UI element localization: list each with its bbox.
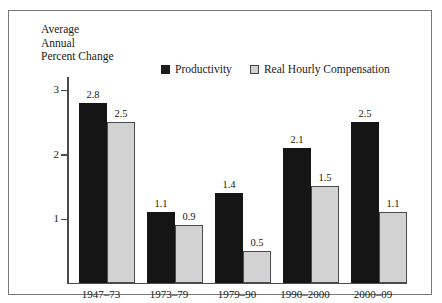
y-axis-tick-label-1: 1 xyxy=(49,213,59,224)
bar-group: 2.51.1 xyxy=(339,77,407,283)
bar-group: 2.11.5 xyxy=(271,77,339,283)
bar-value-label: 2.5 xyxy=(114,109,127,120)
cropped-caption-sliver xyxy=(0,0,442,9)
x-axis-category-label: 1947–73 xyxy=(67,288,135,301)
bar-value-label: 1.1 xyxy=(386,199,399,210)
bar[interactable]: 1.4 xyxy=(215,193,243,283)
y-axis-tick-label-2: 2 xyxy=(49,149,59,160)
y-axis-title-line-2: Annual xyxy=(41,37,114,51)
legend-label-productivity: Productivity xyxy=(175,64,232,75)
x-axis-category-label: 1973–79 xyxy=(135,288,203,301)
bar-value-label: 1.5 xyxy=(318,173,331,184)
bar-value-label: 1.1 xyxy=(154,199,167,210)
x-axis-category-labels: 1947–731973–791979–901990–20002000–09 xyxy=(67,288,407,303)
x-axis-category-label: 1990–2000 xyxy=(271,288,339,301)
bar[interactable]: 0.5 xyxy=(243,251,271,283)
bar[interactable]: 2.8 xyxy=(79,103,107,283)
bar[interactable]: 2.5 xyxy=(351,122,379,283)
bar-value-label: 2.8 xyxy=(86,90,99,101)
bar[interactable]: 2.5 xyxy=(107,122,135,283)
bar-group: 2.82.5 xyxy=(67,77,135,283)
y-axis-tick-label-3: 3 xyxy=(49,84,59,95)
x-axis-category-label: 2000–09 xyxy=(339,288,407,301)
bar[interactable]: 1.5 xyxy=(311,186,339,283)
legend-entry-real-hourly-compensation: Real Hourly Compensation xyxy=(250,64,390,75)
bar-value-label: 0.9 xyxy=(182,212,195,223)
bar[interactable]: 1.1 xyxy=(147,212,175,283)
legend-label-real-hourly-compensation: Real Hourly Compensation xyxy=(264,64,390,75)
bar-group: 1.10.9 xyxy=(135,77,203,283)
y-axis-title-line-1: Average xyxy=(41,23,114,37)
bars-layer: 2.82.51.10.91.40.52.11.52.51.1 xyxy=(67,77,407,283)
legend-entry-productivity: Productivity xyxy=(161,64,232,75)
bar[interactable]: 1.1 xyxy=(379,212,407,283)
figure-frame: Average Annual Percent Change Productivi… xyxy=(8,10,432,295)
bar[interactable]: 2.1 xyxy=(283,148,311,283)
legend-swatch-solid-black-icon xyxy=(161,65,170,74)
bar-value-label: 2.5 xyxy=(358,109,371,120)
chart-legend: Productivity Real Hourly Compensation xyxy=(161,64,390,75)
y-axis-title: Average Annual Percent Change xyxy=(41,23,114,64)
x-axis-category-label: 1979–90 xyxy=(203,288,271,301)
chart-canvas: Average Annual Percent Change Productivi… xyxy=(9,11,431,294)
bar-value-label: 1.4 xyxy=(222,180,235,191)
bar-value-label: 0.5 xyxy=(250,238,263,249)
bar-value-label: 2.1 xyxy=(290,135,303,146)
bar[interactable]: 0.9 xyxy=(175,225,203,283)
legend-swatch-light-gray-icon xyxy=(250,65,259,74)
bar-group: 1.40.5 xyxy=(203,77,271,283)
y-axis-title-line-3: Percent Change xyxy=(41,50,114,64)
